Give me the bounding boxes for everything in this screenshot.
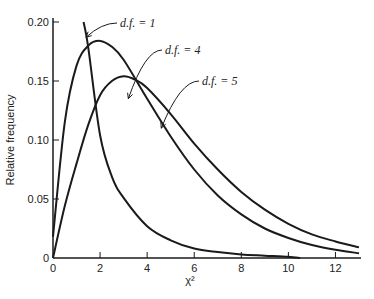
y-axis-title: Relative frequency xyxy=(4,94,16,186)
y-tick-label: 0.15 xyxy=(28,75,49,87)
series-labels: d.f. = 1d.f. = 4d.f. = 5 xyxy=(86,16,237,128)
series-label: d.f. = 4 xyxy=(165,43,200,57)
y-tick-label: 0.10 xyxy=(28,134,49,146)
chi-square-chart: 02468101200.050.100.150.20 d.f. = 1d.f. … xyxy=(0,0,374,299)
annotation-arrow xyxy=(86,23,117,37)
series-line-df-5 xyxy=(53,76,359,258)
series-line-df-4 xyxy=(53,41,359,253)
x-tick-label: 12 xyxy=(329,262,341,274)
x-tick-label: 2 xyxy=(97,262,103,274)
annotation-arrow xyxy=(161,81,199,128)
curves xyxy=(53,22,359,258)
y-tick-label: 0 xyxy=(43,252,49,264)
x-tick-label: 0 xyxy=(50,262,56,274)
series-label: d.f. = 5 xyxy=(202,74,237,88)
chart-canvas: 02468101200.050.100.150.20 d.f. = 1d.f. … xyxy=(0,0,374,299)
x-tick-label: 8 xyxy=(238,262,244,274)
x-axis-title: χ² xyxy=(185,274,195,286)
series-label: d.f. = 1 xyxy=(120,16,155,30)
x-tick-label: 4 xyxy=(144,262,150,274)
x-tick-label: 6 xyxy=(191,262,197,274)
y-tick-label: 0.05 xyxy=(28,193,49,205)
x-tick-label: 10 xyxy=(282,262,294,274)
y-tick-label: 0.20 xyxy=(28,16,49,28)
